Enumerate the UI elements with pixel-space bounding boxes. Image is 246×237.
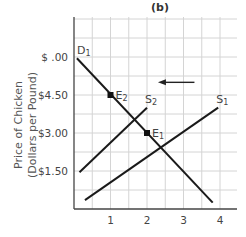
y-tick-label: $ .00 <box>41 51 68 63</box>
curve-label-subscript: 1 <box>223 98 228 107</box>
point-label-e2: E2 <box>116 89 128 103</box>
y-tick-label: $4.50 <box>38 89 68 101</box>
x-tick-label: 2 <box>144 214 151 226</box>
x-tick-label: 4 <box>217 214 224 226</box>
point-e1 <box>144 130 150 136</box>
y-axis-label-line1: Price of Chicken <box>12 81 25 169</box>
supply-demand-chart: (b) $ .00$4.50$3.00$1.50 1234 D1S2S1 E2E… <box>0 0 246 237</box>
point-label-subscript: 2 <box>122 94 127 103</box>
y-tick-label: $1.50 <box>38 165 68 177</box>
axes <box>74 17 237 209</box>
x-tick-label: 1 <box>107 214 114 226</box>
curve-label-subscript: 1 <box>85 49 90 58</box>
curve-s2 <box>79 108 147 173</box>
grid <box>74 17 237 209</box>
point-label-e1: E1 <box>152 127 164 141</box>
y-axis-label-line2: (Dollars per Pound) <box>26 72 39 178</box>
shift-arrow-head <box>158 79 166 85</box>
annotations <box>158 79 195 85</box>
y-tick-labels: $ .00$4.50$3.00$1.50 <box>38 51 68 177</box>
curve-label-subscript: 2 <box>152 98 157 107</box>
curves: D1S2S1 <box>77 44 228 202</box>
x-tick-labels: 1234 <box>107 214 224 226</box>
point-e2 <box>108 92 114 98</box>
x-tick-label: 3 <box>180 214 187 226</box>
y-axis-label: Price of Chicken (Dollars per Pound) <box>12 72 39 178</box>
y-tick-label: $3.00 <box>38 127 68 139</box>
chart-title: (b) <box>151 1 169 14</box>
curve-label-d1: D1 <box>77 44 91 58</box>
point-label-subscript: 1 <box>159 132 164 141</box>
